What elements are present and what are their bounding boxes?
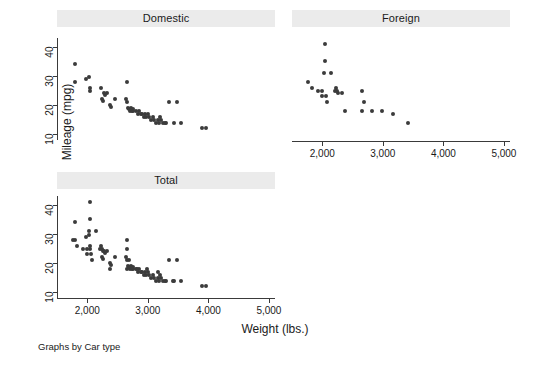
foreign-x-tick-label: 4,000 bbox=[418, 148, 468, 159]
data-point bbox=[101, 99, 105, 103]
total-x-tick bbox=[87, 299, 88, 303]
data-point bbox=[380, 109, 384, 113]
total-x-tick-label: 2,000 bbox=[62, 305, 112, 316]
total-x-tick bbox=[148, 299, 149, 303]
data-point bbox=[73, 238, 77, 242]
data-point bbox=[125, 80, 129, 84]
foreign-x-tick-label: 3,000 bbox=[358, 148, 408, 159]
total-y-tick-label: 20 bbox=[44, 263, 55, 287]
total-x-tick-label: 3,000 bbox=[123, 305, 173, 316]
total-plot-area bbox=[57, 196, 275, 298]
data-point bbox=[167, 100, 171, 104]
data-point bbox=[105, 249, 109, 253]
data-point bbox=[306, 80, 310, 84]
data-point bbox=[324, 94, 328, 98]
data-point bbox=[164, 279, 168, 283]
data-point bbox=[175, 100, 179, 104]
data-point bbox=[73, 62, 77, 66]
data-point bbox=[109, 263, 113, 267]
data-point bbox=[204, 284, 208, 288]
data-point bbox=[172, 279, 176, 283]
data-point bbox=[105, 91, 109, 95]
data-point bbox=[94, 229, 98, 233]
data-point bbox=[89, 252, 93, 256]
total-x-tick-label: 5,000 bbox=[244, 305, 294, 316]
total-x-tick-label: 4,000 bbox=[183, 305, 233, 316]
data-point bbox=[75, 244, 79, 248]
data-point bbox=[101, 257, 105, 261]
domestic-y-tick-label: 40 bbox=[44, 46, 55, 70]
foreign-x-tick bbox=[443, 142, 444, 146]
foreign-x-axis-line bbox=[292, 141, 510, 142]
foreign-x-tick bbox=[504, 142, 505, 146]
data-point bbox=[406, 121, 410, 125]
data-point bbox=[88, 217, 92, 221]
foreign-plot-area bbox=[292, 38, 510, 140]
data-point bbox=[88, 247, 92, 251]
data-point bbox=[99, 86, 103, 90]
data-point bbox=[108, 267, 112, 271]
data-point bbox=[362, 100, 366, 104]
data-point bbox=[113, 97, 117, 101]
total-x-tick bbox=[208, 299, 209, 303]
domestic-y-tick-label: 10 bbox=[44, 134, 55, 158]
data-point bbox=[204, 126, 208, 130]
data-point bbox=[323, 59, 327, 63]
foreign-x-tick-label: 2,000 bbox=[297, 148, 347, 159]
data-point bbox=[73, 80, 77, 84]
data-point bbox=[87, 75, 91, 79]
data-point bbox=[175, 258, 179, 262]
x-axis-title: Weight (lbs.) bbox=[205, 322, 345, 336]
data-point bbox=[329, 71, 333, 75]
data-point bbox=[87, 233, 91, 237]
figure-canvas: Mileage (mpg) Domestic Foreign Total 102… bbox=[0, 0, 538, 376]
data-point bbox=[343, 109, 347, 113]
data-point bbox=[179, 121, 183, 125]
data-point bbox=[109, 105, 113, 109]
data-point bbox=[320, 89, 324, 93]
data-point bbox=[340, 91, 344, 95]
foreign-x-tick-label: 5,000 bbox=[479, 148, 529, 159]
data-point bbox=[88, 89, 92, 93]
data-point bbox=[125, 247, 129, 251]
data-point bbox=[322, 71, 326, 75]
data-point bbox=[391, 112, 395, 116]
data-point bbox=[360, 109, 364, 113]
data-point bbox=[172, 121, 176, 125]
total-x-axis-line bbox=[57, 298, 275, 299]
panel-header-foreign: Foreign bbox=[292, 10, 510, 27]
data-point bbox=[73, 220, 77, 224]
data-point bbox=[323, 42, 327, 46]
total-y-tick-label: 40 bbox=[44, 204, 55, 228]
data-point bbox=[325, 100, 329, 104]
data-point bbox=[125, 100, 129, 104]
figure-note: Graphs by Car type bbox=[38, 341, 120, 352]
data-point bbox=[167, 258, 171, 262]
data-point bbox=[125, 258, 129, 262]
data-point bbox=[113, 255, 117, 259]
data-point bbox=[90, 258, 94, 262]
total-y-tick-label: 30 bbox=[44, 233, 55, 257]
data-point bbox=[164, 121, 168, 125]
data-point bbox=[310, 86, 314, 90]
data-point bbox=[125, 238, 129, 242]
total-y-tick-label: 10 bbox=[44, 292, 55, 316]
foreign-x-tick bbox=[383, 142, 384, 146]
total-x-tick bbox=[269, 299, 270, 303]
data-point bbox=[360, 89, 364, 93]
foreign-x-tick bbox=[322, 142, 323, 146]
domestic-plot-area bbox=[57, 38, 275, 140]
data-point bbox=[179, 279, 183, 283]
panel-header-domestic: Domestic bbox=[57, 10, 275, 27]
data-point bbox=[88, 200, 92, 204]
panel-header-total: Total bbox=[57, 172, 275, 189]
domestic-y-tick-label: 20 bbox=[44, 105, 55, 129]
domestic-y-tick-label: 30 bbox=[44, 75, 55, 99]
data-point bbox=[370, 109, 374, 113]
